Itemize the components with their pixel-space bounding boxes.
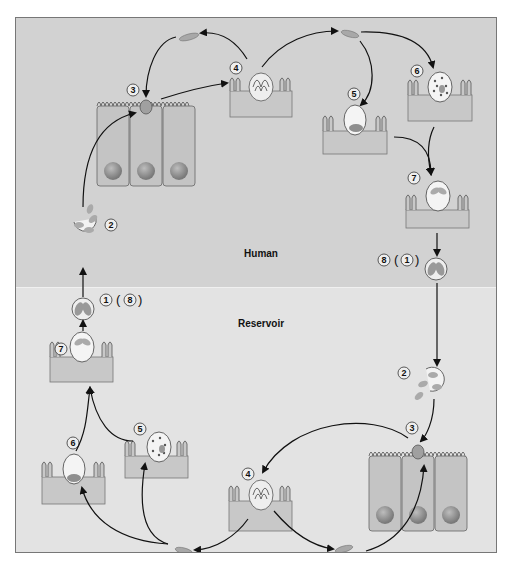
life-cycle-diagram: Human Reservoir 3 4 xyxy=(16,18,497,553)
svg-text:2: 2 xyxy=(401,368,406,378)
svg-text:8: 8 xyxy=(381,255,386,265)
oocyst-cell-human xyxy=(406,181,469,228)
shed-oocyst-human xyxy=(425,258,447,280)
oocyst-cell-reservoir xyxy=(50,332,113,382)
nucleus-icon xyxy=(376,506,394,524)
nucleus-icon xyxy=(104,162,122,180)
stage-label-h3: 3 xyxy=(127,84,139,96)
svg-text:(: ( xyxy=(116,292,121,307)
merozoite-icon xyxy=(341,29,360,39)
svg-text:6: 6 xyxy=(414,66,419,76)
diagram-frame: Human Reservoir 3 4 xyxy=(15,17,497,553)
epithelium-three-cells-human xyxy=(97,100,195,186)
stage-label-r3: 3 xyxy=(406,422,418,434)
stage-label-r7: 7 xyxy=(55,343,67,355)
excysting-sporozoites-reservoir xyxy=(413,367,444,401)
svg-text:3: 3 xyxy=(130,85,135,95)
svg-text:): ) xyxy=(138,292,142,307)
zone-label-reservoir: Reservoir xyxy=(238,318,284,329)
svg-text:4: 4 xyxy=(233,63,238,73)
excysting-sporozoites-human xyxy=(74,203,99,233)
epithelium-three-cells-reservoir xyxy=(369,445,467,531)
microgamont-cell-human xyxy=(408,72,472,121)
stage-label-r6: 6 xyxy=(67,437,79,449)
ingested-oocyst xyxy=(72,298,94,320)
meront-cell-reservoir xyxy=(229,480,292,531)
svg-text:3: 3 xyxy=(409,423,414,433)
svg-text:5: 5 xyxy=(351,89,356,99)
svg-text:5: 5 xyxy=(137,424,142,434)
stage-label-h4: 4 xyxy=(230,62,242,74)
svg-text:1: 1 xyxy=(404,255,409,265)
macrogamont-cell-human xyxy=(323,105,387,154)
sporozoite-attached-icon xyxy=(140,100,152,114)
merozoite-icon xyxy=(175,546,194,553)
sporozoite-attached-icon xyxy=(412,445,424,459)
svg-text:4: 4 xyxy=(245,469,250,479)
stage-label-h1: 1 ( 8 ) xyxy=(100,292,142,307)
stage-label-h7: 7 xyxy=(408,172,420,184)
gamont-cell-reservoir-5 xyxy=(125,432,188,478)
zone-label-human: Human xyxy=(244,248,278,259)
svg-text:7: 7 xyxy=(58,344,63,354)
stage-label-r5: 5 xyxy=(134,423,146,435)
stage-label-h8: 8 ( 1 ) xyxy=(378,252,419,267)
stage-label-h2: 2 xyxy=(105,219,117,231)
merozoite-icon xyxy=(335,544,354,553)
svg-text:6: 6 xyxy=(70,438,75,448)
nucleus-icon xyxy=(137,162,155,180)
stage-label-r4: 4 xyxy=(242,468,254,480)
stage-label-h5: 5 xyxy=(348,88,360,100)
gamont-cell-reservoir-6 xyxy=(42,454,105,504)
svg-text:): ) xyxy=(415,252,419,267)
svg-text:2: 2 xyxy=(108,220,113,230)
merozoite-icon xyxy=(179,32,200,43)
nucleus-icon xyxy=(442,506,460,524)
stage-label-r2: 2 xyxy=(398,367,410,379)
svg-text:8: 8 xyxy=(127,295,132,305)
meront-cell-human xyxy=(230,73,292,117)
svg-text:(: ( xyxy=(394,252,399,267)
svg-text:1: 1 xyxy=(103,295,108,305)
nucleus-icon xyxy=(170,162,188,180)
stage-label-h6: 6 xyxy=(411,65,423,77)
svg-text:7: 7 xyxy=(411,173,416,183)
